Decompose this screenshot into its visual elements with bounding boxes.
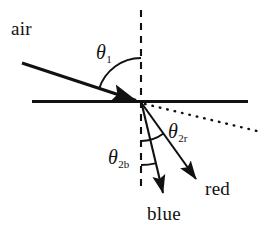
theta-2r-subscript: 2r [178,132,187,144]
theta-1-subscript: 1 [106,53,112,65]
theta-2b-symbol: θ [108,146,118,168]
label-theta-1: θ1 [96,42,111,62]
refraction-diagram: air θ1 θ2r θ2b red blue [0,0,274,232]
theta-1-symbol: θ [96,41,106,63]
incident-ray [22,63,136,101]
diagram-canvas [0,0,274,232]
theta-2r-symbol: θ [168,120,178,142]
label-theta-2r: θ2r [168,121,187,141]
label-air: air [11,19,32,38]
label-theta-2b: θ2b [108,147,129,167]
label-blue: blue [147,204,181,223]
angle-arc-theta2b [141,163,156,165]
label-red: red [205,179,230,198]
theta-2b-subscript: 2b [118,158,129,170]
angle-arc-theta2r [141,134,164,142]
incident-ray-continuation-dotted [145,104,257,131]
